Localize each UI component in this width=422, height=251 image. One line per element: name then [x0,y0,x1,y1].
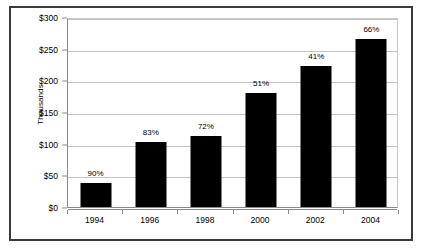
bar-slot: 72% [178,19,233,207]
bar-slot: 90% [68,19,123,207]
bar-data-label: 41% [308,52,324,61]
x-axis-tick-mark [288,210,289,214]
chart-canvas: Thousands $0$50$100$150$200$250$300 90%8… [11,8,411,239]
y-axis-tick-label: $100 [39,140,58,150]
bar[interactable] [301,66,332,207]
bar-slot: 41% [289,19,344,207]
bar[interactable] [356,39,387,207]
y-axis-tick-label: $0 [49,203,58,213]
chart-frame: Thousands $0$50$100$150$200$250$300 90%8… [9,6,413,241]
y-axis-tick-label: $50 [44,171,58,181]
y-axis-tick-label: $200 [39,76,58,86]
x-axis-tick-label: 1994 [85,215,104,225]
bars-layer: 90%83%72%51%41%66% [68,19,397,207]
y-axis-tick-label: $300 [39,13,58,23]
bar-data-label: 72% [198,122,214,131]
bar-slot: 51% [234,19,289,207]
x-axis-tick-label: 2000 [251,215,270,225]
plot-area: 90%83%72%51%41%66% [67,18,398,208]
y-axis-tick-labels: $0$50$100$150$200$250$300 [11,18,67,208]
x-axis-tick-mark [398,210,399,214]
x-axis-tick-mark [177,210,178,214]
x-axis-tick-label: 1996 [140,215,159,225]
x-axis-tick-mark [122,210,123,214]
bar-data-label: 83% [143,128,159,137]
bar[interactable] [135,142,166,207]
bar-slot: 66% [344,19,399,207]
bar-slot: 83% [123,19,178,207]
bar-data-label: 51% [253,79,269,88]
x-axis-tick-labels: 199419961998200020022004 [67,210,398,232]
bar-data-label: 90% [88,169,104,178]
bar[interactable] [80,183,111,207]
screenshot-root: Thousands $0$50$100$150$200$250$300 90%8… [0,0,422,251]
bar-data-label: 66% [363,25,379,34]
x-axis-tick-label: 2004 [361,215,380,225]
x-axis-tick-label: 2002 [306,215,325,225]
y-axis-tick-label: $150 [39,108,58,118]
x-axis-tick-mark [67,210,68,214]
bar[interactable] [246,93,277,207]
x-axis-tick-label: 1998 [195,215,214,225]
x-axis-tick-mark [343,210,344,214]
y-axis-tick-label: $250 [39,45,58,55]
x-axis-tick-mark [233,210,234,214]
bar[interactable] [190,136,221,207]
